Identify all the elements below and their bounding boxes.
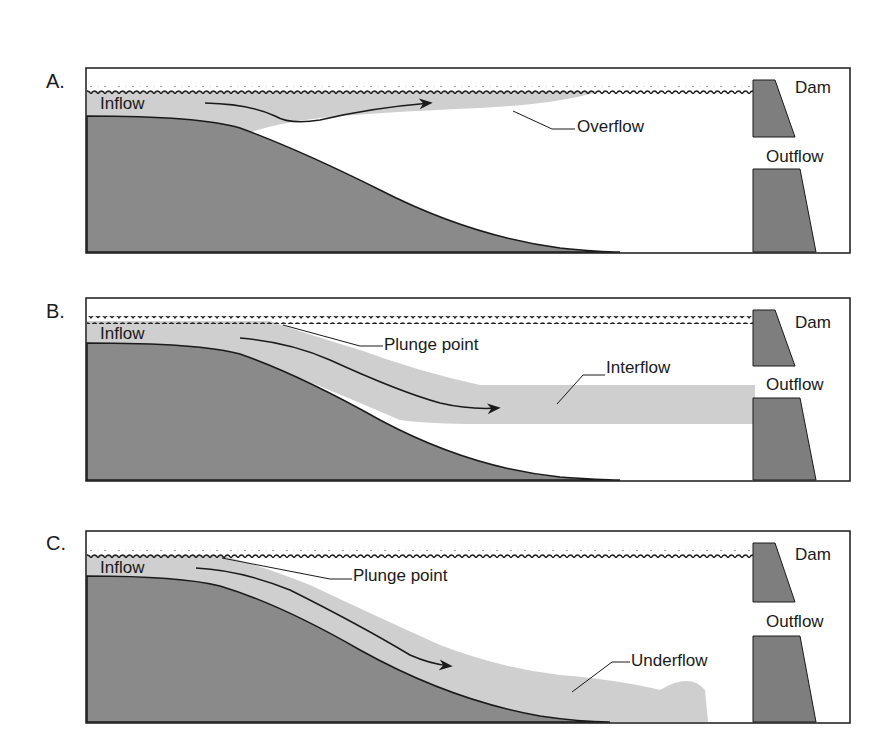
panel-b: B. Inflow Plunge point Interflow Dam Out…: [46, 298, 850, 481]
panel-c: C. Inflow Plunge point Underflow Dam Out…: [46, 531, 850, 723]
outflow-label: Outflow: [766, 147, 824, 166]
water-surface: [87, 86, 753, 94]
inflow-label: Inflow: [100, 558, 145, 577]
panel-letter-b: B.: [46, 300, 65, 322]
panel-letter-a: A.: [46, 70, 65, 92]
plunge-point-label: Plunge point: [353, 566, 448, 585]
inflow-label: Inflow: [100, 94, 145, 113]
dam-label: Dam: [795, 545, 831, 564]
plunge-point-label: Plunge point: [384, 335, 479, 354]
water-surface: [87, 316, 753, 324]
underflow-label: Underflow: [631, 651, 708, 670]
dam-label: Dam: [795, 313, 831, 332]
interflow-label: Interflow: [606, 358, 671, 377]
outflow-label: Outflow: [766, 612, 824, 631]
inflow-label: Inflow: [100, 324, 145, 343]
panel-letter-c: C.: [46, 532, 66, 554]
panel-a: A. Inflow Overflow Dam Outflow: [46, 68, 850, 253]
reservoir-flow-diagram: A. Inflow Overflow Dam Outflow B. Inflow: [0, 0, 895, 744]
dam-label: Dam: [795, 78, 831, 97]
overflow-label: Overflow: [577, 117, 645, 136]
outflow-label: Outflow: [766, 375, 824, 394]
water-surface: [87, 550, 753, 558]
